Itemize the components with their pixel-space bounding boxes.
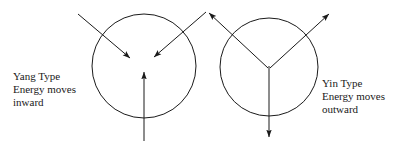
yang-arrow-upper-left: [78, 14, 130, 58]
yin-arrow-upper-left: [209, 13, 268, 68]
yang-caption: Yang Type Energy moves inward: [13, 70, 76, 110]
yin-caption: Yin Type Energy moves outward: [322, 77, 385, 117]
yin-caption-line-1: Yin Type: [322, 77, 385, 90]
yang-arrow-upper-right: [154, 12, 206, 57]
yang-caption-line-3: inward: [13, 96, 76, 109]
yin-caption-line-3: outward: [322, 103, 385, 116]
yin-caption-line-2: Energy moves: [322, 90, 385, 103]
yang-caption-line-2: Energy moves: [13, 83, 76, 96]
yang-caption-line-1: Yang Type: [13, 70, 76, 83]
figure-canvas: Yang Type Energy moves inward Yin Type E…: [0, 0, 411, 144]
yin-arrow-upper-right: [270, 14, 329, 68]
